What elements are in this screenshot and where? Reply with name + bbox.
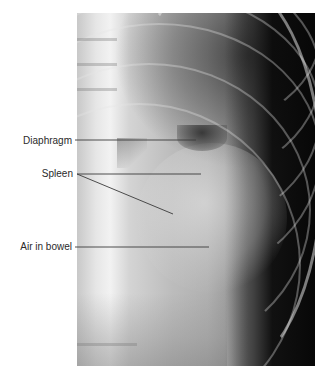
vertebra-edge — [77, 343, 137, 346]
rib-arc — [117, 13, 315, 366]
label-spleen: Spleen — [42, 168, 73, 180]
vertebra-edge — [77, 38, 117, 41]
annotated-xray-figure: Diaphragm Spleen Air in bowel — [0, 0, 332, 377]
label-diaphragm: Diaphragm — [23, 135, 72, 147]
vertebra-edge — [77, 88, 117, 91]
vertebra-edge — [77, 63, 117, 66]
xray-image — [77, 13, 315, 366]
label-air-in-bowel: Air in bowel — [20, 241, 72, 253]
